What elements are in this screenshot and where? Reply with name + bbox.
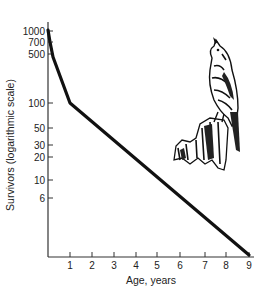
- bird-on-stump-illustration: [174, 37, 240, 170]
- x-tick-8: 8: [223, 260, 229, 271]
- x-tick-3: 3: [111, 260, 117, 271]
- x-tick-labels: 1 2 3 4 5 6 7 8 9: [67, 260, 252, 271]
- y-tick-1000: 1000: [23, 26, 46, 37]
- x-tick-2: 2: [89, 260, 95, 271]
- y-tick-6: 6: [39, 193, 45, 204]
- y-tick-labels: 1000 700 500 100 50 30 20 10 6: [23, 26, 46, 204]
- x-tick-1: 1: [67, 260, 73, 271]
- survivorship-chart: 1000 700 500 100 50 30 20 10 6 1 2 3 4 5…: [0, 0, 269, 303]
- x-tick-9: 9: [246, 260, 252, 271]
- y-tick-700: 700: [28, 37, 45, 48]
- y-tick-30: 30: [34, 140, 46, 151]
- y-tick-10: 10: [34, 175, 46, 186]
- y-tick-20: 20: [34, 152, 46, 163]
- x-ticks: [70, 252, 249, 257]
- x-tick-6: 6: [177, 260, 183, 271]
- x-tick-4: 4: [133, 260, 139, 271]
- y-tick-500: 500: [28, 49, 45, 60]
- x-axis-title: Age, years: [126, 274, 176, 286]
- x-tick-5: 5: [154, 260, 160, 271]
- x-tick-7: 7: [202, 260, 208, 271]
- y-tick-100: 100: [28, 98, 45, 109]
- y-tick-50: 50: [34, 123, 46, 134]
- y-axis-title: Survivors (logarithmic scale): [4, 79, 16, 211]
